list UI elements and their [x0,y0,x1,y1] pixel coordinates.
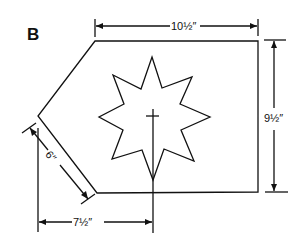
arrowhead-top-left [96,23,103,29]
panel-outline [38,41,258,193]
diagram-drawing [0,0,303,244]
arrowhead-top-right [250,23,257,29]
arrowhead-right-bottom [271,184,277,191]
arrowhead-bottom-left [39,219,46,225]
dim-label-right-height: 9½″ [264,112,283,124]
eight-point-star [99,57,210,180]
arrowhead-bottom-right [145,219,152,225]
arrowhead-right-top [271,41,277,48]
dim-label-bottom-offset: 7½″ [73,216,92,228]
dim-label-top-width: 10½″ [171,20,196,32]
